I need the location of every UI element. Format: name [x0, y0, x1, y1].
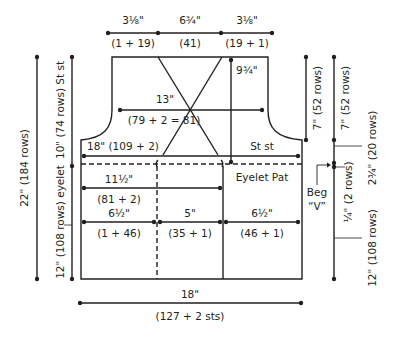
section-2-measure: 5" — [184, 207, 196, 219]
bottom-width-measure: 18" — [181, 288, 199, 300]
upper-band-label: 2¾" (20 rows) — [366, 111, 378, 185]
beg-v-arrowhead — [327, 163, 331, 168]
beg-v-pointer — [317, 165, 328, 185]
garment-schematic: 3⅛" (1 + 19) 6¾" (41) 3⅛" (19 + 1) 9¾" 1… — [0, 0, 401, 342]
v-band-label: ¼" (2 rows) — [342, 161, 354, 222]
chest-stitches: (79 + 2 = 81) — [128, 114, 201, 126]
beg-v-label-line1: Beg — [307, 186, 327, 198]
section-3-stitches: (46 + 1) — [240, 227, 284, 239]
dimension-dots — [35, 31, 336, 305]
section-1-stitches: (1 + 46) — [97, 227, 141, 239]
bottom-width-stitches: (127 + 2 sts) — [156, 310, 225, 322]
armhole-inner-label: 7" (52 rows) — [311, 66, 323, 130]
section-3-measure: 6½" — [251, 207, 273, 219]
top-width-3-stitches: (19 + 1) — [225, 37, 269, 49]
armhole-outer-label: 7" (52 rows) — [339, 66, 351, 130]
eyelet-width-stitches: (81 + 2) — [97, 193, 141, 205]
chest-measure: 13" — [156, 93, 174, 105]
upper-pattern-label: St st — [250, 140, 274, 152]
lower-height-label: 12" (108 rows) eyelet — [54, 165, 66, 279]
total-height-label: 22" (184 rows) — [18, 129, 30, 207]
upper-width-label: 18" (109 + 2) — [87, 140, 159, 152]
lower-band-label: 12" (108 rows) — [366, 209, 378, 287]
section-2-stitches: (35 + 1) — [168, 227, 212, 239]
upper-height-label: 10" (74 rows) St st — [54, 61, 66, 159]
top-width-2-measure: 6¾" — [179, 14, 201, 26]
beg-v-label-line2: “V” — [308, 200, 326, 212]
neck-line-right — [163, 57, 222, 155]
neck-depth-label: 9¾" — [236, 64, 258, 76]
lower-pattern-label: Eyelet Pat — [236, 171, 289, 183]
eyelet-width-measure: 11½" — [105, 173, 133, 185]
top-width-2-stitches: (41) — [179, 37, 201, 49]
top-width-1-measure: 3⅛" — [122, 14, 144, 26]
top-width-1-stitches: (1 + 19) — [111, 37, 155, 49]
neck-line-left — [158, 57, 218, 155]
body-outline — [81, 57, 302, 279]
section-1-measure: 6½" — [108, 207, 130, 219]
top-width-3-measure: 3⅛" — [236, 14, 258, 26]
